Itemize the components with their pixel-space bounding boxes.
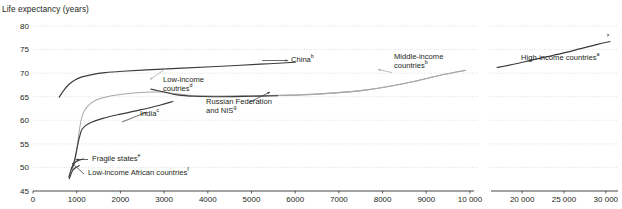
y-axis-tick-label: 65 bbox=[20, 93, 29, 102]
annotation-india: Indiac bbox=[140, 110, 159, 119]
y-axis-tick-label: 55 bbox=[20, 140, 29, 149]
annotation-fragile-states: Fragile statese bbox=[92, 155, 141, 164]
annotation-low-income-countries: Low-incomecoutriesd bbox=[163, 76, 204, 93]
life-expectancy-chart: Life expectancy (years) 4550556065707580… bbox=[0, 0, 622, 209]
x-axis-tick-label: 0 bbox=[31, 195, 36, 204]
y-axis-tick-label: 50 bbox=[20, 163, 29, 172]
annotation-russian-federation-nis: Russian Federationand NISg bbox=[206, 98, 272, 115]
y-axis-tick-label: 45 bbox=[20, 187, 29, 196]
leader-arrowhead bbox=[606, 35, 609, 37]
x-axis-tick-label: 5000 bbox=[243, 195, 261, 204]
annotation-middle-income-countries: Middle-incomecountriesb bbox=[394, 53, 443, 70]
y-axis-tick-label: 80 bbox=[20, 22, 29, 31]
x-axis-tick-label: 8000 bbox=[374, 195, 392, 204]
x-axis-tick-label: 9000 bbox=[417, 195, 435, 204]
chart-plot-area: 4550556065707580010002000300040005000600… bbox=[0, 0, 622, 209]
x-axis-tick-label: 6000 bbox=[286, 195, 304, 204]
x-axis-tick-label: 1000 bbox=[68, 195, 86, 204]
x-axis-tick-label: 2000 bbox=[112, 195, 130, 204]
x-axis-tick-label: 7000 bbox=[330, 195, 348, 204]
x-axis-tick-label: 3000 bbox=[155, 195, 173, 204]
y-axis-tick-label: 60 bbox=[20, 116, 29, 125]
x-axis-tick-label: 25 000 bbox=[552, 195, 577, 204]
y-axis-tick-label: 70 bbox=[20, 69, 29, 78]
leader-arrowhead bbox=[150, 77, 153, 80]
x-axis-tick-label: 4000 bbox=[199, 195, 217, 204]
x-axis-tick-label: 20 000 bbox=[510, 195, 535, 204]
x-axis-tick-label: 30 000 bbox=[594, 195, 619, 204]
annotation-china: Chinab bbox=[291, 56, 314, 65]
y-axis-tick-label: 75 bbox=[20, 45, 29, 54]
annotation-high-income-countries: High-income countriesa bbox=[521, 54, 600, 63]
annotation-low-income-african-countries: Low-income African countriesf bbox=[88, 169, 189, 178]
x-axis-tick-label: 10 000 bbox=[458, 195, 483, 204]
series-line bbox=[195, 70, 466, 96]
